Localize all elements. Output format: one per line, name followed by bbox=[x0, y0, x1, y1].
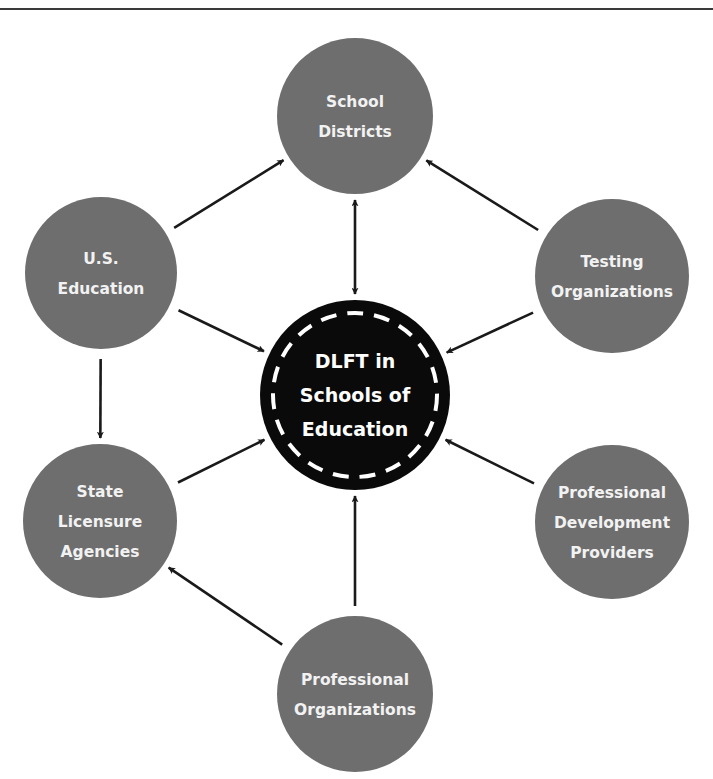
arrow-us-education-to-school-districts bbox=[174, 160, 283, 228]
node-label-line: Providers bbox=[570, 544, 654, 562]
stakeholder-diagram: SchoolDistrictsU.S.EducationTestingOrgan… bbox=[0, 0, 713, 779]
node-circle bbox=[277, 616, 433, 772]
node-label-line: Development bbox=[554, 514, 671, 532]
node-circle bbox=[277, 38, 433, 194]
node-professional-development-providers: ProfessionalDevelopmentProviders bbox=[535, 445, 689, 599]
node-dlft: DLFT inSchools ofEducation bbox=[260, 300, 450, 490]
arrow-testing-organizations-to-dlft bbox=[447, 313, 533, 353]
node-circle bbox=[25, 197, 177, 349]
node-label-line: Agencies bbox=[61, 543, 140, 561]
node-us-education: U.S.Education bbox=[25, 197, 177, 349]
node-label-line: State bbox=[77, 483, 124, 501]
arrow-professional-organizations-to-state-licensure-agencies bbox=[169, 568, 282, 645]
node-circle bbox=[535, 199, 689, 353]
node-label-line: Districts bbox=[318, 123, 392, 141]
node-school-districts: SchoolDistricts bbox=[277, 38, 433, 194]
node-label-line: School bbox=[326, 93, 384, 111]
node-label-line: Organizations bbox=[551, 283, 673, 301]
arrow-professional-development-providers-to-dlft bbox=[446, 440, 534, 484]
arrow-us-education-to-dlft bbox=[179, 310, 264, 351]
node-state-licensure-agencies: StateLicensureAgencies bbox=[23, 444, 177, 598]
node-label-line: Education bbox=[58, 280, 145, 298]
node-label-line: Professional bbox=[301, 671, 409, 689]
node-label-line: Education bbox=[302, 418, 408, 440]
node-label-line: U.S. bbox=[83, 250, 119, 268]
node-professional-organizations: ProfessionalOrganizations bbox=[277, 616, 433, 772]
arrow-state-licensure-agencies-to-dlft bbox=[178, 440, 264, 483]
node-testing-organizations: TestingOrganizations bbox=[535, 199, 689, 353]
nodes-layer: SchoolDistrictsU.S.EducationTestingOrgan… bbox=[23, 38, 689, 772]
arrow-testing-organizations-to-school-districts bbox=[426, 160, 538, 230]
node-label-line: Professional bbox=[558, 484, 666, 502]
node-label-line: DLFT in bbox=[315, 350, 395, 372]
node-label-line: Licensure bbox=[58, 513, 142, 531]
node-label-line: Schools of bbox=[300, 384, 411, 406]
node-label-line: Testing bbox=[580, 253, 643, 271]
node-label-line: Organizations bbox=[294, 701, 416, 719]
